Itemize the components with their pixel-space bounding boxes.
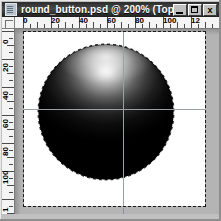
- ruler-tick: [2, 31, 14, 32]
- ruler-label: 100: [163, 17, 176, 25]
- ruler-tick: [205, 22, 206, 28]
- document-window: round_button.psd @ 200% (Top R... x 0204…: [0, 0, 221, 221]
- ruler-tick: [2, 59, 14, 60]
- ruler-tick: [7, 129, 14, 130]
- psd-document-icon: [5, 3, 17, 16]
- ruler-label: 20: [51, 17, 60, 25]
- ruler-label: 1: [2, 208, 10, 212]
- ruler-label: 0: [2, 40, 10, 44]
- close-icon: x: [204, 5, 216, 15]
- canvas-container: [23, 31, 206, 207]
- ruler-label: 0: [23, 17, 27, 25]
- ruler-label: 80: [2, 147, 10, 156]
- ruler-tick: [2, 143, 14, 144]
- ruler-label: 12: [191, 17, 200, 25]
- minimize-button[interactable]: [173, 4, 187, 16]
- round-button-sphere[interactable]: [38, 44, 174, 180]
- ruler-tick: [156, 24, 157, 28]
- image-canvas[interactable]: [24, 32, 205, 206]
- maximize-icon: [191, 6, 198, 13]
- window-controls: x: [173, 4, 217, 16]
- ruler-tick: [37, 22, 38, 28]
- ruler-tick: [9, 136, 13, 137]
- ruler-tick: [2, 115, 14, 116]
- ruler-label: 40: [2, 91, 10, 100]
- close-button[interactable]: x: [203, 4, 217, 16]
- window-right-frame: [220, 17, 221, 220]
- ruler-tick: [9, 52, 13, 53]
- minimize-icon: [176, 12, 183, 14]
- maximize-button[interactable]: [188, 4, 202, 16]
- ruler-label: 60: [2, 119, 10, 128]
- ruler-tick: [72, 24, 73, 28]
- ruler-tick: [212, 24, 213, 28]
- ruler-origin-corner[interactable]: [2, 17, 15, 29]
- vertical-ruler[interactable]: 0204060801001: [2, 29, 15, 214]
- document-work-area[interactable]: [15, 29, 220, 214]
- vertical-guide[interactable]: [123, 32, 124, 206]
- window-title: round_button.psd @ 200% (Top R...: [21, 4, 173, 15]
- ruler-tick: [184, 24, 185, 28]
- photoshop-document-window-screenshot: round_button.psd @ 200% (Top R... x 0204…: [0, 0, 221, 221]
- horizontal-guide[interactable]: [24, 109, 205, 110]
- ruler-tick: [7, 157, 14, 158]
- ruler-tick: [9, 80, 13, 81]
- ruler-label: 20: [2, 63, 10, 72]
- ruler-tick: [149, 22, 150, 28]
- ruler-tick: [30, 24, 31, 28]
- ruler-tick: [2, 87, 14, 88]
- window-bottom-frame: [2, 214, 220, 220]
- ruler-tick: [121, 22, 122, 28]
- ruler-tick: [7, 185, 14, 186]
- ruler-tick: [7, 73, 14, 74]
- ruler-tick: [128, 24, 129, 28]
- ruler-tick: [7, 101, 14, 102]
- horizontal-ruler[interactable]: 02040608010012: [15, 17, 220, 29]
- ruler-tick: [9, 192, 13, 193]
- ruler-tick: [2, 199, 14, 200]
- ruler-tick: [9, 164, 13, 165]
- ruler-label: 80: [135, 17, 144, 25]
- ruler-tick: [93, 22, 94, 28]
- ruler-tick: [44, 24, 45, 28]
- ruler-label: 100: [2, 171, 10, 184]
- ruler-tick: [65, 22, 66, 28]
- ruler-tick: [177, 22, 178, 28]
- ruler-tick: [7, 45, 14, 46]
- ruler-label: 60: [107, 17, 116, 25]
- ruler-tick: [9, 108, 13, 109]
- window-titlebar[interactable]: round_button.psd @ 200% (Top R... x: [2, 2, 220, 17]
- ruler-label: 40: [79, 17, 88, 25]
- ruler-tick: [100, 24, 101, 28]
